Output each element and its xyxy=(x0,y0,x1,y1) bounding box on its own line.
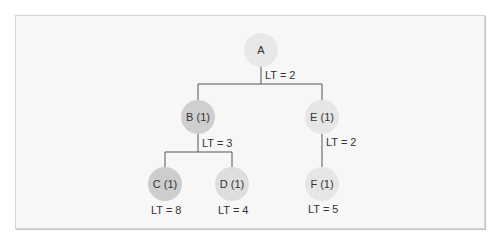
node-c-label: C (1) xyxy=(153,178,177,190)
node-b: B (1) xyxy=(181,100,215,134)
lt-label-a: LT = 2 xyxy=(265,69,295,81)
node-f: F (1) xyxy=(305,167,339,201)
lt-label-f: LT = 5 xyxy=(308,203,338,215)
node-a-label: A xyxy=(257,44,264,56)
lt-label-b: LT = 3 xyxy=(202,137,232,149)
node-f-label: F (1) xyxy=(310,178,333,190)
node-a: A xyxy=(244,33,278,67)
lt-label-c: LT = 8 xyxy=(151,204,181,216)
node-c: C (1) xyxy=(148,167,182,201)
node-e-label: E (1) xyxy=(310,111,334,123)
node-d: D (1) xyxy=(215,167,249,201)
lt-label-e: LT = 2 xyxy=(326,136,356,148)
lt-label-d: LT = 4 xyxy=(218,204,248,216)
node-d-label: D (1) xyxy=(220,178,244,190)
node-e: E (1) xyxy=(305,100,339,134)
node-b-label: B (1) xyxy=(186,111,210,123)
